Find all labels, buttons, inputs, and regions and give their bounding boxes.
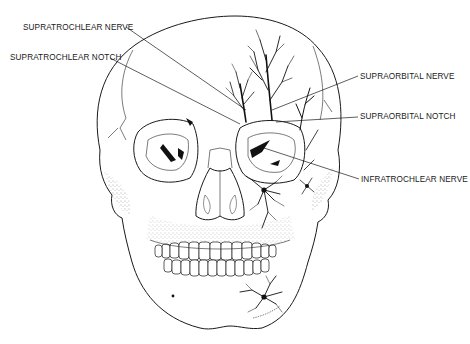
leader-supraorbital-notch: [276, 117, 358, 122]
left-cheek-shading: [104, 170, 130, 215]
right-orbit: [236, 121, 305, 184]
lateral-supraorbital-branches: [296, 88, 318, 170]
label-supratrochlear-notch: SUPRATROCHLEAR NOTCH: [10, 53, 121, 62]
skull-diagram: SUPRATROCHLEAR NERVE SUPRATROCHLEAR NOTC…: [0, 0, 470, 344]
label-supratrochlear-nerve: SUPRATROCHLEAR NERVE: [23, 23, 134, 32]
artist-signature: [253, 306, 280, 318]
left-orbit: [134, 118, 198, 182]
supraorbital-nerve: [248, 30, 294, 120]
label-infratrochlear-nerve: INFRATROCHLEAR NERVE: [361, 175, 468, 184]
label-supraorbital-notch: SUPRAORBITAL NOTCH: [360, 112, 456, 121]
leader-supratrochlear-notch: [110, 58, 240, 124]
cranium-outline: [97, 16, 341, 150]
leader-supratrochlear-nerve: [126, 27, 246, 110]
zygomatic-nerve-branch: [300, 178, 314, 194]
right-cheek-shading: [312, 165, 334, 212]
upper-teeth: [155, 242, 276, 260]
lower-teeth: [164, 259, 269, 276]
mental-nerve: [240, 276, 282, 312]
supratrochlear-nerve: [226, 64, 254, 122]
mental-foramen-left: [172, 295, 175, 298]
skull: [97, 16, 341, 329]
right-temporal-suture: [313, 46, 332, 120]
label-supraorbital-nerve: SUPRAORBITAL NERVE: [360, 72, 455, 81]
teeth: [150, 240, 290, 276]
maxilla-shading: [146, 215, 295, 246]
